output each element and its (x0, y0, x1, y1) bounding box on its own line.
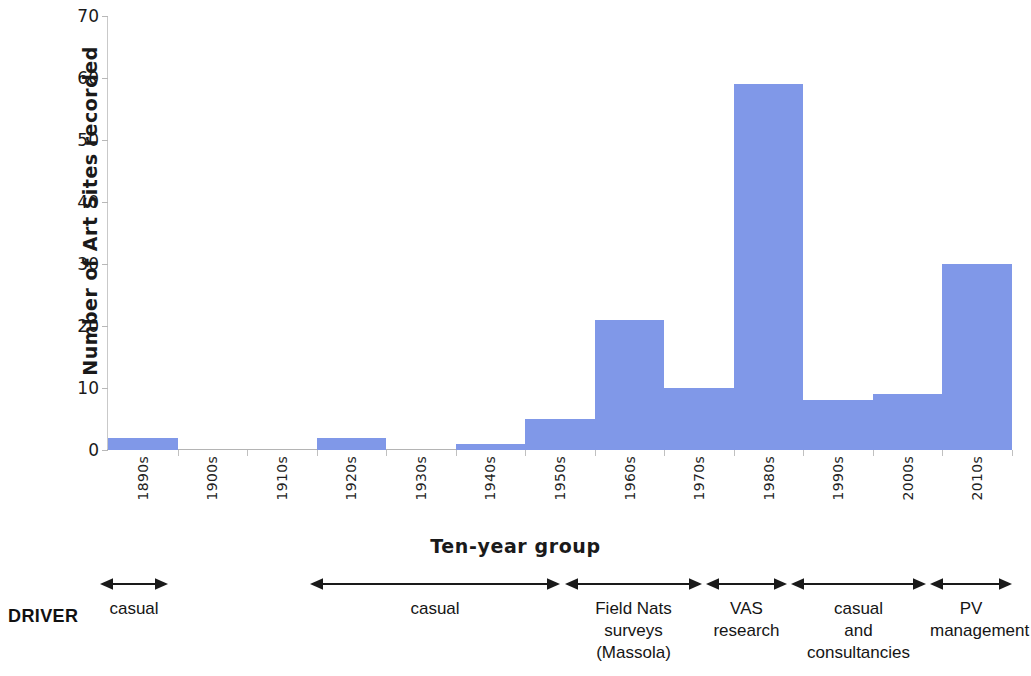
x-tick-mark (803, 450, 804, 456)
plot-area: 010203040506070 (108, 16, 1012, 450)
double-arrow-icon (565, 576, 702, 592)
double-arrow-icon (791, 576, 926, 592)
chart-figure: Number of Art Sites recorded 01020304050… (0, 0, 1031, 676)
x-tick-label: 2000s (900, 456, 916, 500)
driver-segment-label: Field Nats surveys (Massola) (565, 598, 702, 664)
bar-series (108, 16, 1012, 450)
x-tick-label: 1900s (204, 456, 220, 500)
x-tick-label: 1910s (274, 456, 290, 500)
y-tick-mark (102, 326, 108, 327)
bar (942, 264, 1012, 450)
x-tick-mark (1012, 450, 1013, 456)
x-tick-mark (664, 450, 665, 456)
y-tick-label: 20 (77, 316, 99, 336)
bar (108, 438, 178, 450)
y-tick-mark (102, 264, 108, 265)
driver-segment: casual (310, 576, 560, 620)
bar (873, 394, 943, 450)
y-tick-mark (102, 450, 108, 451)
y-tick-mark (102, 78, 108, 79)
driver-segment: PV management (930, 576, 1012, 642)
y-tick-label: 50 (77, 130, 99, 150)
y-tick-label: 40 (77, 192, 99, 212)
driver-segment: casual (100, 576, 168, 620)
y-tick-label: 10 (77, 378, 99, 398)
bar (803, 400, 873, 450)
double-arrow-icon (930, 576, 1012, 592)
x-tick-label: 1960s (622, 456, 638, 500)
x-tick-label: 1990s (830, 456, 846, 500)
x-tick-mark (178, 450, 179, 456)
driver-segment-label: casual (100, 598, 168, 620)
y-tick-label: 0 (88, 440, 99, 460)
double-arrow-icon (100, 576, 168, 592)
driver-segment-label: PV management (930, 598, 1012, 642)
y-tick-mark (102, 388, 108, 389)
driver-segment: Field Nats surveys (Massola) (565, 576, 702, 664)
x-tick-label: 1890s (135, 456, 151, 500)
x-tick-mark (317, 450, 318, 456)
y-tick-mark (102, 140, 108, 141)
bar (525, 419, 595, 450)
x-tick-label: 1980s (761, 456, 777, 500)
x-tick-mark (595, 450, 596, 456)
y-tick-label: 70 (77, 6, 99, 26)
driver-segment-label: casual and consultancies (791, 598, 926, 664)
bar (734, 84, 804, 450)
x-tick-label: 1940s (482, 456, 498, 500)
x-tick-label: 2010s (969, 456, 985, 500)
x-tick-mark (525, 450, 526, 456)
y-tick-label: 60 (77, 68, 99, 88)
bar (456, 444, 526, 450)
bar (664, 388, 734, 450)
y-tick-label: 30 (77, 254, 99, 274)
x-tick-label: 1920s (343, 456, 359, 500)
double-arrow-icon (310, 576, 560, 592)
x-tick-mark (873, 450, 874, 456)
x-tick-mark (942, 450, 943, 456)
x-tick-mark (247, 450, 248, 456)
double-arrow-icon (706, 576, 787, 592)
y-tick-mark (102, 16, 108, 17)
x-tick-label: 1950s (552, 456, 568, 500)
x-tick-mark (456, 450, 457, 456)
bar (317, 438, 387, 450)
x-tick-label: 1970s (691, 456, 707, 500)
x-tick-label: 1930s (413, 456, 429, 500)
driver-segment: VAS research (706, 576, 787, 642)
driver-segment: casual and consultancies (791, 576, 926, 664)
y-tick-mark (102, 202, 108, 203)
driver-segment-label: casual (310, 598, 560, 620)
x-tick-mark (386, 450, 387, 456)
driver-row-label: DRIVER (8, 606, 78, 627)
driver-segment-label: VAS research (706, 598, 787, 642)
x-tick-mark (734, 450, 735, 456)
bar (595, 320, 665, 450)
x-axis-title: Ten-year group (0, 535, 1031, 557)
